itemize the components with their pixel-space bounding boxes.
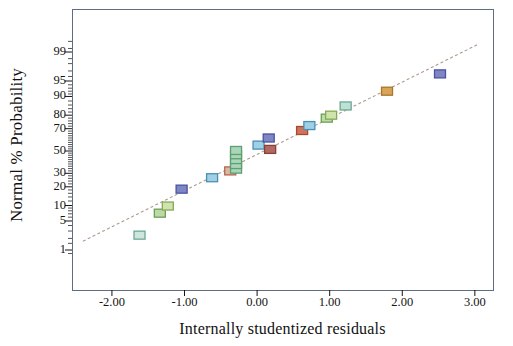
y-axis-title-text: Normal % Probability (7, 68, 27, 222)
x-tick-label-3-00: 3.00 (452, 296, 498, 309)
data-point-marker-3 (176, 185, 187, 193)
data-point-11 (253, 141, 264, 149)
data-point-20 (435, 70, 446, 78)
x-tick-label-1-00: 1.00 (307, 296, 353, 309)
normal-reference-line (83, 44, 479, 241)
y-tick-label-99: 99 (54, 45, 67, 58)
y-axis-title: Normal % Probability (0, 0, 34, 290)
data-point-marker-20 (435, 70, 446, 78)
data-point-17 (326, 111, 337, 119)
data-point-12 (263, 134, 274, 142)
data-point-4 (207, 174, 218, 182)
x-tick-label-2-00: 2.00 (379, 296, 425, 309)
data-point-2 (162, 202, 173, 210)
data-point-marker-2 (162, 202, 173, 210)
data-point-19 (382, 87, 393, 95)
data-point-marker-17 (326, 111, 337, 119)
data-point-marker-19 (382, 87, 393, 95)
y-tick-label-5: 5 (60, 214, 66, 227)
data-point-marker-13 (265, 145, 276, 153)
y-tick-label-80: 80 (54, 108, 67, 121)
y-tick-label-10: 10 (54, 199, 67, 212)
reference-line-segment (83, 44, 479, 241)
y-tick-label-1: 1 (60, 243, 66, 256)
data-point-3 (176, 185, 187, 193)
data-point-0 (134, 231, 145, 239)
data-point-marker-10 (231, 146, 242, 154)
y-tick-label-50: 50 (54, 144, 67, 157)
plot-frame (73, 10, 494, 291)
y-axis-tick-labels: 99959080705030201051 (30, 0, 66, 290)
data-point-marker-4 (207, 174, 218, 182)
x-tick-label--1-00: -1.00 (162, 296, 208, 309)
data-points (134, 70, 446, 239)
plot-frame-rect (73, 10, 494, 291)
y-tick-label-70: 70 (54, 122, 67, 135)
y-tick-label-30: 30 (54, 166, 67, 179)
data-point-18 (340, 102, 351, 110)
data-point-marker-11 (253, 141, 264, 149)
x-axis-title: Internally studentized residuals (72, 320, 493, 338)
x-tick-label--2-00: -2.00 (89, 296, 135, 309)
normal-probability-plot: Normal % Probability 9995908070503020105… (0, 0, 513, 346)
data-point-marker-18 (340, 102, 351, 110)
y-tick-label-90: 90 (54, 89, 67, 102)
y-tick-label-95: 95 (54, 74, 67, 87)
y-tick-label-20: 20 (54, 180, 67, 193)
data-point-15 (304, 122, 315, 130)
x-tick-label-0-00: 0.00 (234, 296, 280, 309)
data-point-10 (231, 146, 242, 154)
data-point-marker-0 (134, 231, 145, 239)
data-point-marker-12 (263, 134, 274, 142)
data-point-marker-15 (304, 122, 315, 130)
data-point-13 (265, 145, 276, 153)
axis-ticks (65, 41, 475, 296)
